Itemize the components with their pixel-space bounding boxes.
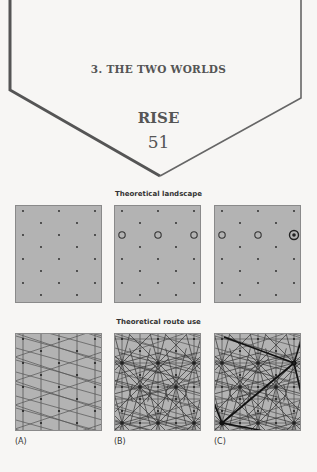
route-use-caption: Theoretical route use <box>0 318 317 326</box>
landscape-caption: Theoretical landscape <box>0 190 317 198</box>
route-panel-c <box>214 333 301 431</box>
landscape-panel-b <box>114 205 201 303</box>
landscape-panel-a <box>15 205 102 303</box>
route-panel-a <box>15 333 102 431</box>
chapter-pentagon-frame <box>0 0 317 190</box>
panel-label-c: (C) <box>214 437 226 446</box>
panel-label-b: (B) <box>114 437 126 446</box>
chapter-title: 3. THE TWO WORLDS <box>0 63 317 75</box>
route-panel-b <box>114 333 201 431</box>
landscape-panel-c <box>214 205 301 303</box>
section-title: RISE <box>0 109 317 127</box>
panel-label-a: (A) <box>15 437 27 446</box>
page-number: 51 <box>0 132 317 152</box>
